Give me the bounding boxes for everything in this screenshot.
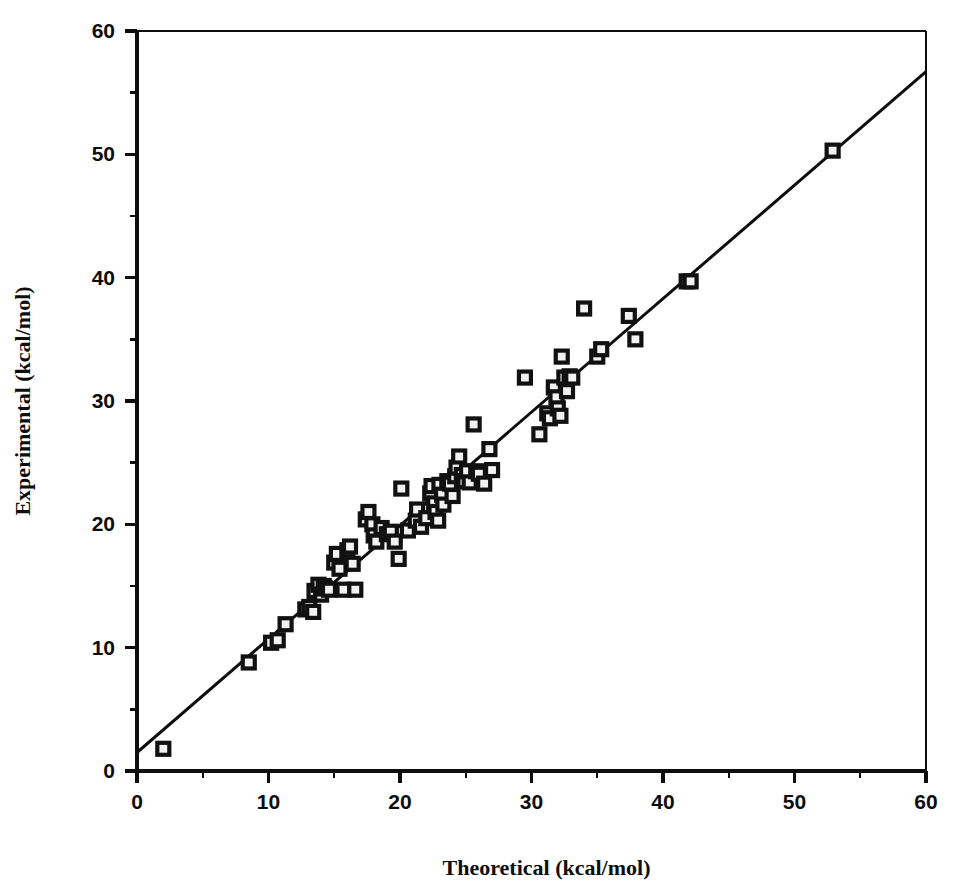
data-point [344, 541, 356, 553]
data-point [623, 310, 635, 322]
data-point [533, 428, 545, 440]
x-tick-label: 0 [131, 790, 143, 813]
data-point [347, 558, 359, 570]
x-tick-label: 30 [520, 790, 543, 813]
data-point [393, 553, 405, 565]
y-tick-label: 0 [103, 759, 115, 782]
data-point [578, 303, 590, 315]
data-point [486, 464, 498, 476]
data-point [629, 333, 641, 345]
data-point [468, 418, 480, 430]
y-tick-label: 60 [92, 19, 115, 42]
x-tick-label: 20 [388, 790, 411, 813]
y-tick-label: 10 [92, 636, 115, 659]
scatter-plot: 01020304050600102030405060Theoretical (k… [0, 0, 963, 896]
x-tick-label: 40 [651, 790, 674, 813]
data-point [556, 351, 568, 363]
y-tick-label: 40 [92, 266, 115, 289]
y-axis-title: Experimental (kcal/mol) [10, 286, 35, 515]
data-point [432, 515, 444, 527]
data-point [157, 743, 169, 755]
data-point [483, 443, 495, 455]
data-point [447, 490, 459, 502]
trendline [137, 72, 926, 753]
data-point [566, 372, 578, 384]
data-point [453, 451, 465, 463]
data-point [362, 506, 374, 518]
data-point [478, 478, 490, 490]
data-point [827, 145, 839, 157]
data-point [395, 483, 407, 495]
data-point [519, 372, 531, 384]
data-point [595, 343, 607, 355]
x-tick-label: 10 [257, 790, 280, 813]
figure-container: 01020304050600102030405060Theoretical (k… [0, 0, 963, 896]
y-tick-label: 30 [92, 389, 115, 412]
data-point [307, 606, 319, 618]
data-point [561, 385, 573, 397]
data-point [349, 584, 361, 596]
data-point [280, 618, 292, 630]
x-axis-title: Theoretical (kcal/mol) [443, 855, 651, 880]
y-tick-label: 20 [92, 512, 115, 535]
data-point [685, 275, 697, 287]
data-point [272, 634, 284, 646]
data-point [243, 656, 255, 668]
data-point [554, 410, 566, 422]
x-tick-label: 60 [914, 790, 937, 813]
data-point [389, 536, 401, 548]
data-point [334, 563, 346, 575]
data-point [323, 584, 335, 596]
y-tick-label: 50 [92, 142, 115, 165]
x-tick-label: 50 [783, 790, 806, 813]
